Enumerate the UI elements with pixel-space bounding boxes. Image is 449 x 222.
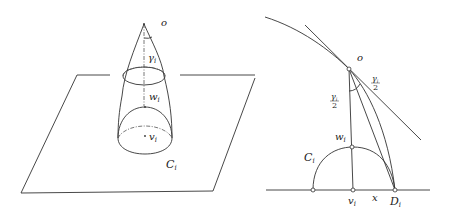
point-v	[351, 188, 355, 192]
point-o	[347, 67, 351, 71]
lower-base-front	[118, 138, 172, 154]
label-gamma: γi	[148, 52, 156, 65]
chord-o-D	[349, 69, 395, 190]
gamma-angle-arc	[144, 37, 152, 38]
label-w-right: wi	[335, 131, 346, 144]
svg-text:2: 2	[373, 83, 378, 92]
half-angle-arc	[349, 84, 360, 91]
label-x: x	[372, 192, 378, 203]
outer-arc	[265, 17, 395, 190]
figure-canvas: o γi wi vi Ci o	[0, 0, 449, 222]
plane-outline	[21, 75, 255, 193]
label-o: o	[357, 52, 363, 63]
apex-point	[143, 23, 145, 25]
point-w	[350, 145, 354, 149]
label-apex-o: o	[161, 17, 167, 28]
semicircle-C	[313, 147, 395, 190]
point-left-end	[311, 188, 315, 192]
v-point	[144, 135, 146, 137]
point-D	[393, 188, 397, 192]
tangent-line	[305, 25, 421, 140]
lower-dome	[118, 107, 172, 138]
label-w: wi	[149, 91, 160, 104]
right-panel: o γi 2 γi 2 wi Ci vi x Di	[265, 17, 430, 209]
label-C: Ci	[166, 158, 177, 172]
vertical-segment	[349, 69, 353, 190]
label-D: Di	[389, 195, 401, 209]
label-C-right: Ci	[304, 151, 315, 165]
svg-text:2: 2	[332, 101, 337, 110]
label-v: vi	[149, 131, 157, 144]
label-half-angle-left: γi 2	[330, 92, 339, 110]
label-half-angle-right: γi 2	[371, 74, 380, 92]
left-panel: o γi wi vi Ci	[21, 17, 255, 193]
w-point	[144, 106, 146, 108]
label-v-right: vi	[348, 195, 356, 208]
